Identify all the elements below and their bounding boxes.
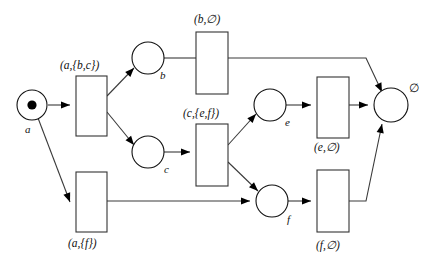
transition-label-t-af: (a,{f})	[68, 238, 97, 250]
arrowhead-icon	[302, 101, 311, 108]
place-label-p-f: f	[287, 214, 290, 225]
arrowhead-icon	[63, 192, 70, 202]
arc-p-c-t-cef	[164, 148, 190, 155]
arc-p-f-t-f	[288, 197, 311, 204]
transition-label-t-abc: (a,{b,c})	[60, 60, 99, 72]
arc-p-a-t-af	[38, 118, 70, 202]
place-p-final[interactable]	[374, 88, 408, 122]
transition-label-t-b: (b,∅)	[194, 14, 220, 26]
arc-t-af-p-f	[107, 197, 250, 204]
transition-t-cef[interactable]	[196, 124, 228, 186]
arrowhead-icon	[359, 101, 368, 108]
petri-net-diagram: (a,{b,c})(a,{f})(b,∅)(c,{e,f})(e,∅)(f,∅)…	[0, 0, 429, 269]
place-p-e[interactable]	[254, 89, 286, 121]
arc-line	[38, 118, 70, 202]
transition-t-f[interactable]	[317, 170, 349, 232]
arrowhead-icon	[181, 148, 190, 155]
arc-t-abc-p-b	[107, 68, 134, 96]
transition-t-b[interactable]	[196, 32, 228, 94]
arc-t-cef-p-e	[228, 114, 256, 145]
arrowhead-icon	[126, 136, 134, 145]
transition-label-t-f: (f,∅)	[316, 240, 340, 252]
petri-net-canvas	[0, 0, 429, 269]
arrowhead-icon	[377, 124, 384, 134]
arc-t-cef-p-f	[228, 162, 258, 191]
transition-t-af[interactable]	[76, 172, 107, 232]
arc-line	[349, 124, 382, 201]
transition-label-t-e: (e,∅)	[314, 142, 340, 154]
place-p-c[interactable]	[132, 136, 164, 168]
token-dot-icon	[27, 100, 36, 109]
arrowhead-icon	[302, 197, 311, 204]
transition-label-t-cef: (c,{e,f})	[183, 108, 219, 120]
arc-line	[228, 58, 382, 92]
place-label-p-e: e	[285, 117, 290, 128]
place-p-f[interactable]	[256, 185, 288, 217]
arrowhead-icon	[61, 101, 70, 108]
arc-t-e-p-final	[349, 101, 368, 108]
transition-t-abc[interactable]	[76, 76, 107, 136]
transition-t-e[interactable]	[317, 77, 349, 138]
arrowhead-icon	[375, 82, 382, 92]
place-label-p-a: a	[25, 124, 31, 135]
place-label-p-c: c	[164, 164, 169, 175]
place-label-p-b: b	[160, 70, 166, 81]
arrowhead-icon	[241, 197, 250, 204]
place-label-p-final: ∅	[409, 83, 419, 95]
arc-p-a-t-abc	[48, 101, 70, 108]
arc-t-b-p-final	[228, 58, 382, 92]
arc-p-e-t-e	[286, 101, 311, 108]
arc-t-abc-p-c	[107, 112, 134, 145]
arc-t-f-p-final	[349, 124, 384, 201]
